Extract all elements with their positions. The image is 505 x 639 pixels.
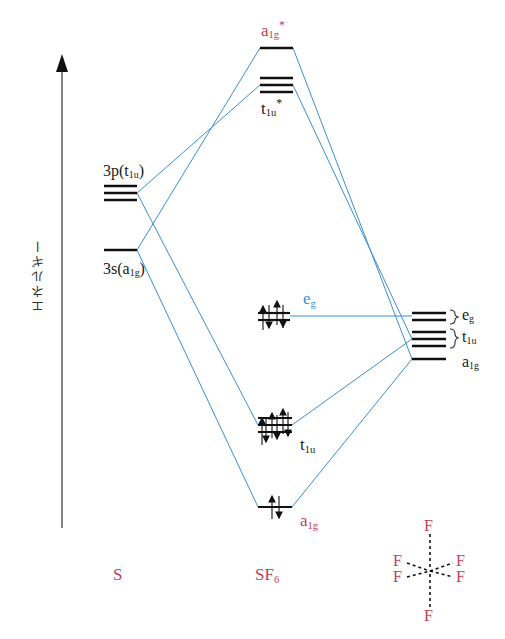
energy-axis-label: エネルギー xyxy=(28,238,47,313)
mo-diagram xyxy=(0,0,505,639)
sf6-a1g-star-label: a1g* xyxy=(261,20,285,41)
f-atom-top: F xyxy=(424,518,433,534)
axis-arrow-icon xyxy=(56,54,68,72)
f6-eg-level xyxy=(412,313,446,320)
sf6-eg-level xyxy=(258,301,290,330)
f6-t1u-label: t1u xyxy=(462,329,476,346)
f-atom-left-upper: F xyxy=(393,553,402,569)
sf6-t1u-level xyxy=(258,409,292,445)
sf6-a1g-level xyxy=(258,496,292,519)
f-atom-left-lower: F xyxy=(393,569,402,585)
sf6-t1u-star-level xyxy=(260,78,293,92)
sf6-eg-label: eg xyxy=(303,290,316,309)
f6-t1u-level xyxy=(412,332,446,346)
s-3p-level xyxy=(104,186,137,200)
brace-icons xyxy=(450,310,458,348)
sf6-t1u-star-label: t1u* xyxy=(261,98,282,119)
energy-axis xyxy=(56,54,68,528)
column-title-sf6: SF6 xyxy=(255,566,279,585)
octahedron-bonds xyxy=(407,534,453,608)
sf6-t1u-label: t1u xyxy=(300,436,315,455)
s-3p-label: 3p(t1u) xyxy=(103,163,144,180)
f-atom-bottom: F xyxy=(424,608,433,624)
f6-a1g-label: a1g xyxy=(462,354,479,371)
column-title-s: S xyxy=(113,566,122,583)
f6-eg-label: eg xyxy=(462,307,474,324)
electron-arrows-icon xyxy=(259,409,291,445)
s-3s-label: 3s(a1g) xyxy=(103,261,145,278)
f-atom-right-upper: F xyxy=(456,553,465,569)
sf6-a1g-label: a1g xyxy=(300,512,318,531)
electron-arrows-icon xyxy=(260,301,286,330)
f-atom-right-lower: F xyxy=(456,569,465,585)
